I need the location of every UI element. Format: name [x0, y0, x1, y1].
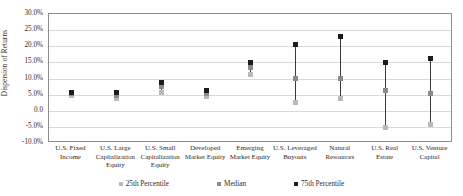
x-tick-label: U.S. Venture Capital [407, 144, 452, 161]
marker-25th-percentile [159, 90, 164, 95]
legend-swatch-icon [294, 182, 298, 186]
legend-label: 75th Percentile [301, 180, 344, 188]
range-stem [385, 63, 386, 128]
x-tick-label: Developed Market Equity [183, 144, 228, 161]
marker-median [383, 88, 388, 93]
marker-75th-percentile [428, 56, 433, 61]
whisker-group [229, 14, 274, 141]
legend-item: 75th Percentile [294, 180, 344, 188]
y-tick-label: 10.0% [24, 74, 43, 82]
legend-swatch-icon [119, 182, 123, 186]
marker-75th-percentile [383, 60, 388, 65]
dispersion-of-returns-chart: Dispersion of Returns 30.0%25.0%20.0%15.… [0, 0, 463, 196]
legend-item: 25th Percentile [119, 180, 169, 188]
marker-median [293, 76, 298, 81]
y-tick-label: 20.0% [24, 41, 43, 49]
marker-25th-percentile [383, 125, 388, 130]
x-tick-label: U.S. Leveraged Buyouts [272, 144, 317, 161]
x-tick-label: U.S. Large Capitalization Equity [93, 144, 138, 170]
x-tick-label: Emerging Market Equity [228, 144, 273, 161]
whisker-group [184, 14, 229, 141]
whisker-group [408, 14, 453, 141]
y-tick-label: 0.0 [34, 106, 43, 114]
whisker-group [139, 14, 184, 141]
whisker-group [363, 14, 408, 141]
marker-75th-percentile [248, 60, 253, 65]
marker-75th-percentile [338, 34, 343, 39]
x-tick-label: U.S. Small Capitalization Equity [138, 144, 183, 170]
x-tick-label: U.S. Real Estate [362, 144, 407, 161]
y-tick-label: 15.0% [24, 57, 43, 65]
whisker-group [94, 14, 139, 141]
range-stem [340, 37, 341, 99]
y-tick-label: -5.0% [26, 122, 43, 130]
data-series-layer [49, 14, 451, 141]
legend-swatch-icon [217, 182, 221, 186]
plot-area [48, 13, 452, 142]
y-tick-label: 30.0% [24, 9, 43, 17]
y-tick-label: 5.0% [28, 90, 43, 98]
y-tick-label: -10.0% [22, 138, 43, 146]
marker-75th-percentile [114, 90, 119, 95]
y-tick-label: 25.0% [24, 25, 43, 33]
range-stem [295, 45, 296, 102]
marker-75th-percentile [69, 90, 74, 95]
marker-median [248, 65, 253, 70]
x-tick-label: Natural Resources [317, 144, 362, 161]
marker-25th-percentile [293, 100, 298, 105]
chart-legend: 25th PercentileMedian75th Percentile [0, 180, 463, 188]
whisker-group [273, 14, 318, 141]
marker-25th-percentile [428, 122, 433, 127]
marker-median [428, 91, 433, 96]
whisker-group [318, 14, 363, 141]
legend-label: Median [224, 180, 246, 188]
marker-median [338, 76, 343, 81]
marker-25th-percentile [248, 72, 253, 77]
whisker-group [49, 14, 94, 141]
legend-label: 25th Percentile [126, 180, 169, 188]
x-tick-label: U.S. Fixed Income [48, 144, 93, 161]
x-axis-tick-labels: U.S. Fixed IncomeU.S. Large Capitalizati… [48, 144, 452, 178]
y-axis-tick-labels: 30.0%25.0%20.0%15.0%10.0%5.0%0.0-5.0%-10… [0, 0, 46, 196]
marker-median [159, 84, 164, 89]
marker-75th-percentile [293, 42, 298, 47]
legend-item: Median [217, 180, 246, 188]
marker-75th-percentile [159, 80, 164, 85]
marker-25th-percentile [338, 96, 343, 101]
marker-75th-percentile [204, 88, 209, 93]
